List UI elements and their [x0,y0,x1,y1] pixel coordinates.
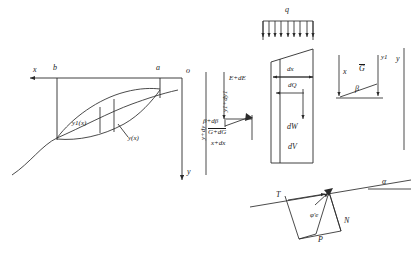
figure-canvas: x b a o y y1(x) y(x) y+dy q dx dQ dW dV … [0,0,419,255]
slice-dx-label: dx [287,66,294,73]
right-angle-beta-label: β [355,85,359,93]
slope-P-label: P [318,236,323,244]
curve-varied-label: y1(x) [72,120,86,127]
left-axis-y-label: y [187,168,191,176]
energy-EdE-label: E+dE [229,75,246,82]
left-axes [30,78,182,180]
ordinate-y1dy1-label: y1+dy1 [222,91,229,112]
station-xdx-label: x+dx [211,140,225,147]
slope-apex-marker [324,188,333,196]
left-curves [12,88,178,175]
right-detail [336,48,404,150]
slice-dQ-label: dQ [288,82,297,89]
right-depth-x-label: x [343,68,347,76]
distributed-load [263,21,313,40]
right-ordinate-y1-label: y1 [381,54,388,61]
right-force-G-label: G [359,64,365,73]
slope-T-label: T [276,191,280,199]
curve-base-label: y(x) [128,135,139,142]
left-origin-label: o [186,67,190,75]
slope-alpha-label: α [382,178,386,186]
slope-friction-angle-label: φ'e [310,212,318,219]
load-q-label: q [285,6,289,14]
left-point-b-label: b [53,64,57,72]
left-point-a-label: a [156,64,160,72]
vertical-offset-label: y+dy [200,126,207,140]
force-GdG-label: G+dG [208,128,226,136]
slice-dV-label: dV [288,143,297,151]
angle-beta-dbeta-label: β+dβ [203,118,218,125]
slope-N-label: N [344,217,349,225]
right-axis-y-label: y [396,55,400,63]
left-axis-x-label: x [33,66,37,74]
slice-dW-label: dW [287,123,298,131]
